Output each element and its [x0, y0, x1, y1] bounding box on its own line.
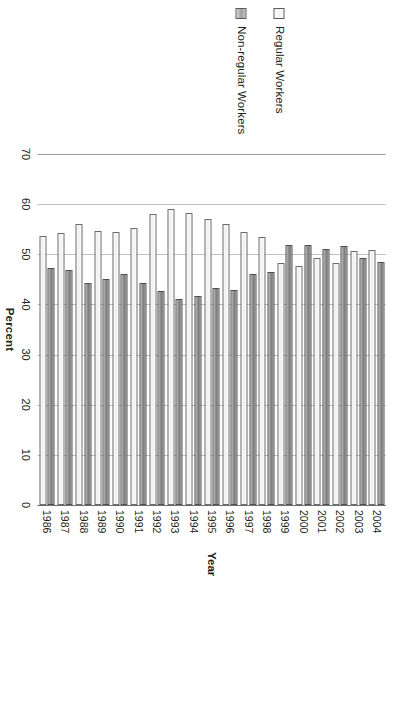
bar-regular-1994 — [185, 213, 192, 505]
bar-regular-1988 — [75, 224, 82, 505]
percent-tick-10: 10 — [19, 449, 31, 461]
bar-chart: Regular Workers Non-regular Workers 0102… — [0, 0, 403, 702]
bar-nonregular-2000 — [304, 245, 311, 505]
bar-nonregular-1992 — [157, 291, 164, 505]
year-tick-1998: 1998 — [260, 510, 272, 533]
bar-group — [165, 154, 183, 505]
bar-regular-2002 — [332, 263, 339, 505]
bar-regular-1996 — [222, 224, 229, 505]
percent-axis-title: Percent — [3, 154, 15, 505]
year-tick-1991: 1991 — [132, 510, 144, 533]
bar-regular-1993 — [167, 209, 174, 505]
bar-regular-1997 — [240, 232, 247, 505]
bar-nonregular-1990 — [120, 274, 127, 505]
bar-regular-1987 — [57, 233, 64, 505]
bar-nonregular-1996 — [230, 290, 237, 505]
legend-item-regular: Regular Workers — [273, 8, 285, 134]
bar-group — [257, 154, 275, 505]
bar-group — [184, 154, 202, 505]
bar-nonregular-2004 — [377, 262, 384, 505]
bar-nonregular-2002 — [340, 246, 347, 505]
bar-regular-1991 — [130, 228, 137, 505]
bar-group — [367, 154, 385, 505]
percent-tick-70: 70 — [19, 148, 31, 160]
bar-nonregular-1998 — [267, 272, 274, 505]
year-tick-1990: 1990 — [113, 510, 125, 533]
year-tick-1987: 1987 — [58, 510, 70, 533]
bar-group — [293, 154, 311, 505]
legend-label-regular: Regular Workers — [273, 26, 285, 114]
rotated-figure-wrapper: Regular Workers Non-regular Workers 0102… — [0, 0, 403, 702]
bar-nonregular-1988 — [84, 283, 91, 505]
bar-nonregular-1987 — [65, 270, 72, 505]
bar-nonregular-2003 — [359, 258, 366, 505]
bar-regular-1989 — [94, 231, 101, 505]
year-tick-1988: 1988 — [77, 510, 89, 533]
bar-regular-2001 — [313, 258, 320, 505]
bar-group — [147, 154, 165, 505]
percent-tick-0: 0 — [19, 502, 31, 508]
year-tick-1986: 1986 — [40, 510, 52, 533]
year-tick-2001: 2001 — [315, 510, 327, 533]
bar-regular-1998 — [258, 237, 265, 505]
percent-tick-40: 40 — [19, 298, 31, 310]
year-axis-title: Year — [37, 552, 385, 576]
bar-group — [37, 154, 55, 505]
plot-area — [37, 154, 385, 505]
percent-tick-20: 20 — [19, 399, 31, 411]
bar-regular-2000 — [295, 266, 302, 505]
bar-regular-1995 — [204, 219, 211, 505]
bar-nonregular-1995 — [212, 288, 219, 505]
year-tick-1993: 1993 — [168, 510, 180, 533]
year-tick-1997: 1997 — [242, 510, 254, 533]
bar-nonregular-1989 — [102, 279, 109, 505]
bar-regular-1999 — [277, 263, 284, 505]
legend-swatch-nonregular — [236, 8, 247, 19]
legend-item-nonregular: Non-regular Workers — [235, 8, 247, 134]
year-tick-1996: 1996 — [223, 510, 235, 533]
bar-series-container — [37, 154, 385, 505]
bar-nonregular-1986 — [47, 268, 54, 505]
percent-tick-50: 50 — [19, 248, 31, 260]
percent-tick-60: 60 — [19, 198, 31, 210]
year-tick-2003: 2003 — [352, 510, 364, 533]
year-tick-2004: 2004 — [370, 510, 382, 533]
legend-swatch-regular — [274, 8, 285, 19]
bar-group — [74, 154, 92, 505]
year-tick-1999: 1999 — [278, 510, 290, 533]
chart-legend: Regular Workers Non-regular Workers — [235, 8, 285, 134]
bar-group — [238, 154, 256, 505]
year-tick-1992: 1992 — [150, 510, 162, 533]
bar-nonregular-2001 — [322, 249, 329, 505]
year-axis-ticks: 1986198719881989199019911992199319941995… — [37, 508, 385, 548]
bar-nonregular-1999 — [285, 245, 292, 505]
bar-regular-1990 — [112, 232, 119, 505]
year-tick-2000: 2000 — [297, 510, 309, 533]
bar-regular-2004 — [368, 250, 375, 505]
bar-group — [55, 154, 73, 505]
bar-nonregular-1997 — [249, 274, 256, 505]
year-tick-1994: 1994 — [187, 510, 199, 533]
bar-nonregular-1993 — [175, 299, 182, 505]
year-tick-2002: 2002 — [333, 510, 345, 533]
bar-group — [202, 154, 220, 505]
bar-group — [220, 154, 238, 505]
legend-label-nonregular: Non-regular Workers — [235, 26, 247, 134]
year-tick-1989: 1989 — [95, 510, 107, 533]
bar-group — [129, 154, 147, 505]
year-tick-1995: 1995 — [205, 510, 217, 533]
bar-regular-1986 — [39, 236, 46, 505]
bar-group — [312, 154, 330, 505]
bar-group — [110, 154, 128, 505]
category-axis-line — [37, 505, 385, 506]
bar-nonregular-1991 — [139, 283, 146, 505]
bar-group — [348, 154, 366, 505]
bar-regular-1992 — [149, 214, 156, 505]
bar-group — [92, 154, 110, 505]
percent-tick-30: 30 — [19, 348, 31, 360]
bar-group — [275, 154, 293, 505]
bar-nonregular-1994 — [194, 296, 201, 505]
bar-group — [330, 154, 348, 505]
bar-regular-2003 — [350, 251, 357, 505]
